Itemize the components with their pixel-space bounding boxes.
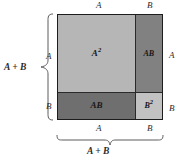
region-ab-bottom-label: AB — [90, 101, 102, 110]
region-a-squared-label: A2 — [92, 49, 101, 58]
area-square: A2 AB AB B2 — [57, 14, 163, 120]
right-label-b: B — [169, 104, 175, 113]
region-a-squared: A2 — [58, 15, 136, 93]
region-ab-right: AB — [136, 15, 162, 93]
top-label-b: B — [147, 1, 153, 10]
bottom-sum-label: A + B — [87, 147, 109, 157]
region-ab-bottom: AB — [58, 93, 136, 119]
region-b-squared: B2 — [136, 93, 162, 119]
region-ab-right-label: AB — [143, 50, 154, 58]
left-label-a: A — [46, 52, 52, 61]
left-sum-label: A + B — [4, 63, 26, 73]
binomial-square-diagram: A B A + B A B A2 AB AB B2 A B A B A + B — [0, 0, 185, 163]
bottom-label-b: B — [147, 124, 153, 133]
left-label-b: B — [46, 102, 52, 111]
region-b-squared-label: B2 — [144, 102, 153, 110]
right-label-a: A — [169, 51, 175, 60]
bottom-brace-icon — [56, 134, 165, 146]
bottom-label-a: A — [96, 124, 102, 133]
top-label-a: A — [96, 1, 102, 10]
